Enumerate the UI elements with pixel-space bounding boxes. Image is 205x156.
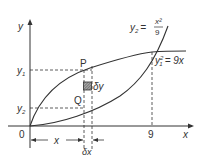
- y-axis: [28, 19, 33, 148]
- equation-lower-curve: y2= x² 9: [129, 17, 163, 37]
- svg-text:9: 9: [155, 28, 160, 37]
- point-p-label: P: [80, 58, 87, 69]
- guide-lines: [30, 52, 152, 150]
- curve-lower-y2-x-squared-over-9: [30, 26, 168, 126]
- point-q-label: Q: [74, 95, 82, 106]
- svg-text:y21= 9x: y21= 9x: [154, 55, 185, 67]
- y2-label: y2: [16, 103, 26, 115]
- delta-x-label: δx: [82, 147, 92, 156]
- x-span-label: x: [53, 135, 60, 146]
- x-axis-label: x: [182, 129, 189, 140]
- x-tick-9: 9: [148, 129, 154, 140]
- svg-text:x²: x²: [154, 17, 162, 26]
- area-diagram: y x 0 9 P Q δy y1 y2 y2= x² 9 y21= 9x x: [0, 0, 205, 156]
- dx-dimension: [93, 138, 104, 142]
- equation-upper-curve: y21= 9x: [154, 55, 185, 67]
- delta-y-label: δy: [93, 81, 105, 92]
- area-element-hatched: [84, 82, 92, 90]
- svg-text:y2=: y2=: [129, 22, 146, 34]
- y-axis-label: y: [17, 21, 24, 32]
- origin-label: 0: [19, 129, 25, 140]
- y1-label: y1: [16, 65, 25, 77]
